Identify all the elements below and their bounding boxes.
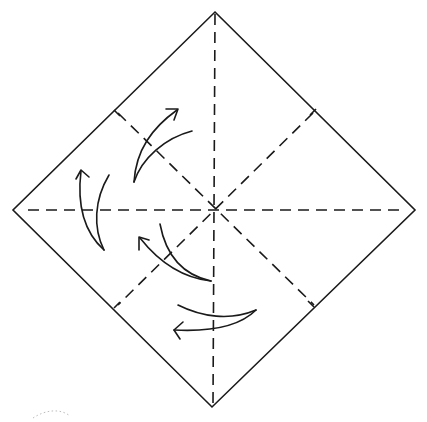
fold-arrow-lower-center [139,224,211,281]
arrowhead-icon [76,170,89,179]
fold-arrow-upper-left [134,109,192,182]
fold-arrow-bottom [174,305,256,339]
origami-fold-diagram [0,0,427,422]
faint-dotted-arc [33,411,70,418]
